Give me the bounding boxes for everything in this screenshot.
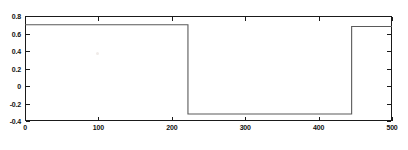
y-tick-label--0.2: -0.2 [21,100,32,107]
x-tick-label-200: 200 [166,124,177,131]
signal-polyline [25,25,392,114]
y-tick-label-0.4: 0.4 [21,48,30,55]
x-tick-top-300 [245,17,246,21]
x-tick-label-100: 100 [93,124,104,131]
x-tick-top-500 [392,17,393,21]
y-tick-right-0 [387,86,391,87]
chart-figure: 0100200300400500 0.80.60.40.20-0.2-0.4 [0,0,408,150]
y-tick-0 [26,86,30,87]
x-tick-label-0: 0 [23,124,27,131]
x-tick-top-400 [319,17,320,21]
y-tick-right-0.6 [387,34,391,35]
x-tick-label-400: 400 [313,124,324,131]
y-tick-right-0.8 [387,16,391,17]
x-tick-500 [392,117,393,121]
y-tick-right--0.4 [387,121,391,122]
y-tick-label--0.4: -0.4 [21,118,32,125]
x-tick-top-200 [172,17,173,21]
x-tick-400 [319,117,320,121]
y-tick-right-0.4 [387,51,391,52]
x-tick-200 [172,117,173,121]
y-tick-label-0.8: 0.8 [21,13,30,20]
y-tick-right-0.2 [387,69,391,70]
y-tick-right--0.2 [387,104,391,105]
y-tick-label-0.2: 0.2 [21,65,30,72]
y-tick-label-0.6: 0.6 [21,30,30,37]
x-tick-300 [245,117,246,121]
x-tick-100 [98,117,99,121]
x-tick-label-300: 300 [240,124,251,131]
x-tick-label-500: 500 [386,124,397,131]
x-tick-top-100 [98,17,99,21]
plot-area [25,16,392,121]
y-tick-label-0: 0 [21,83,25,90]
signal-series [25,16,392,121]
